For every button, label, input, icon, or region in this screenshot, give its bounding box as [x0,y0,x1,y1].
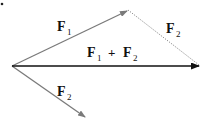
svg-text:F: F [87,45,96,60]
vector-f2-translated-dotted [128,10,199,65]
svg-text:F: F [57,19,66,34]
svg-text:2: 2 [67,92,72,102]
svg-text:2: 2 [176,29,181,39]
svg-text:1: 1 [97,53,102,63]
label-f2-top: F 2 [166,21,181,39]
svg-text:F: F [57,84,66,99]
corner-dot [1,3,4,6]
svg-text:1: 1 [67,27,72,37]
svg-text:F: F [123,45,132,60]
label-resultant: F 1 + F 2 [87,45,138,63]
vector-f2-arrow [12,66,85,117]
svg-text:+: + [108,45,115,60]
label-f1: F 1 [57,19,72,37]
svg-text:F: F [166,21,175,36]
svg-text:2: 2 [133,53,138,63]
vector-diagram: F 1 F 2 F 1 + F 2 F 2 [0,0,201,123]
